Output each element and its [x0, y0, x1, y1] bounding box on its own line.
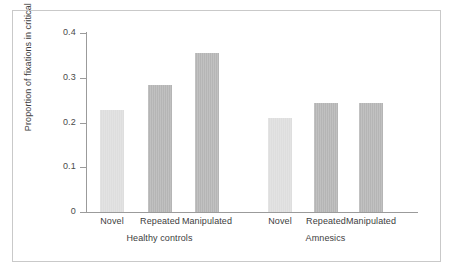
- y-tick-label: 0.1: [24, 161, 76, 171]
- figure: 00.10.20.30.4 Proportion of fixations in…: [0, 0, 454, 273]
- bar-texture: [100, 110, 124, 212]
- x-category-label: Manipulated: [331, 216, 411, 226]
- bar: [100, 110, 124, 212]
- bar-texture: [195, 53, 219, 212]
- bar: [359, 103, 383, 212]
- x-group-label: Amnesics: [266, 233, 386, 243]
- x-group-label: Healthy controls: [100, 233, 220, 243]
- bar: [314, 103, 338, 212]
- bar: [148, 85, 172, 212]
- bar-texture: [314, 103, 338, 212]
- bar-texture: [268, 118, 292, 212]
- y-tick-label: 0: [24, 206, 76, 216]
- bar-texture: [359, 103, 383, 212]
- y-tick-mark: [80, 212, 86, 213]
- x-category-label: Manipulated: [167, 216, 247, 226]
- bar-texture: [148, 85, 172, 212]
- x-axis-line: [86, 212, 418, 213]
- bar: [195, 53, 219, 212]
- plot-area: [86, 33, 417, 212]
- y-axis-title: Proportion of fixations in critical regi…: [23, 0, 33, 143]
- bar: [268, 118, 292, 212]
